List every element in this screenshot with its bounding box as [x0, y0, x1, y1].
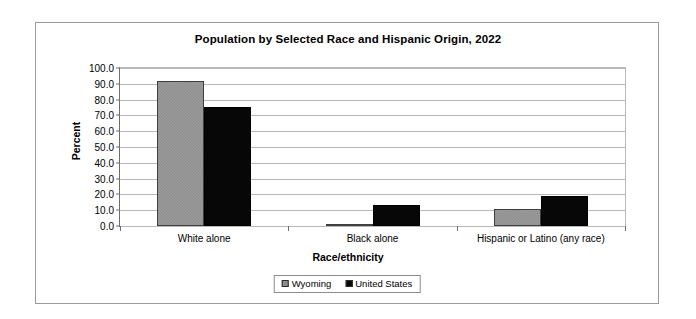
bar-united-states-white-alone [204, 107, 251, 226]
bar-wyoming-black-alone [326, 224, 373, 226]
x-axis-tick-mark [457, 226, 458, 231]
x-axis-tick-mark [288, 226, 289, 231]
y-axis-tick-label: 50.0 [95, 142, 114, 153]
y-axis-tick-label: 0.0 [100, 221, 114, 232]
legend-item-wyoming: Wyoming [282, 278, 332, 289]
y-axis-tick-label: 70.0 [95, 110, 114, 121]
y-axis-tick-mark [116, 83, 120, 84]
y-axis-title: Percent [70, 81, 82, 201]
x-axis-category-label: Black alone [347, 233, 399, 244]
x-axis-tick-mark [625, 226, 626, 231]
y-axis-tick-mark [116, 162, 120, 163]
y-axis-tick-mark [116, 68, 120, 69]
legend-label: United States [355, 278, 412, 289]
y-axis-tick-label: 90.0 [95, 78, 114, 89]
y-axis-tick-mark [116, 194, 120, 195]
x-axis-title: Race/ethnicity [36, 251, 660, 263]
plot-area: 100.090.080.070.060.050.040.030.020.010.… [119, 67, 626, 227]
legend-swatch-icon [282, 280, 289, 287]
chart-title: Population by Selected Race and Hispanic… [36, 33, 660, 45]
x-axis-tick-mark [120, 226, 121, 231]
y-axis-tick-mark [116, 178, 120, 179]
y-axis-tick-mark [116, 115, 120, 116]
y-axis-tick-mark [116, 99, 120, 100]
legend-label: Wyoming [292, 278, 332, 289]
y-axis-tick-label: 40.0 [95, 157, 114, 168]
x-axis-category-label: White alone [178, 233, 231, 244]
bar-united-states-black-alone [373, 205, 420, 226]
gridline [120, 68, 625, 69]
chart-frame: Population by Selected Race and Hispanic… [35, 22, 659, 304]
bar-united-states-hispanic-or-latino-any-race [541, 196, 588, 226]
y-axis-tick-label: 20.0 [95, 189, 114, 200]
y-axis-tick-mark [116, 210, 120, 211]
y-axis-tick-mark [116, 147, 120, 148]
y-axis-tick-mark [116, 131, 120, 132]
y-axis-tick-label: 30.0 [95, 173, 114, 184]
y-axis-tick-label: 10.0 [95, 205, 114, 216]
gridline [120, 226, 625, 227]
x-axis-category-label: Hispanic or Latino (any race) [477, 233, 605, 244]
legend-item-united-states: United States [345, 278, 412, 289]
chart-legend: WyomingUnited States [274, 275, 421, 293]
y-axis-tick-label: 80.0 [95, 94, 114, 105]
bar-wyoming-white-alone [157, 81, 204, 226]
y-axis-tick-label: 60.0 [95, 126, 114, 137]
legend-swatch-icon [345, 280, 352, 287]
y-axis-tick-label: 100.0 [89, 63, 114, 74]
bar-wyoming-hispanic-or-latino-any-race [494, 209, 541, 226]
